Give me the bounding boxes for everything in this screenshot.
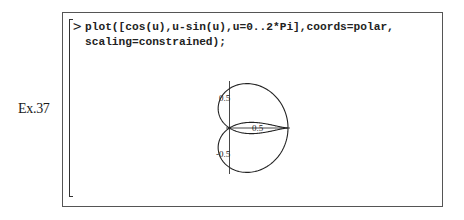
polar-plot[interactable]: 0.5 -0.5 0.5 [0, 0, 464, 220]
x-tick-label: 0.5 [252, 123, 264, 133]
